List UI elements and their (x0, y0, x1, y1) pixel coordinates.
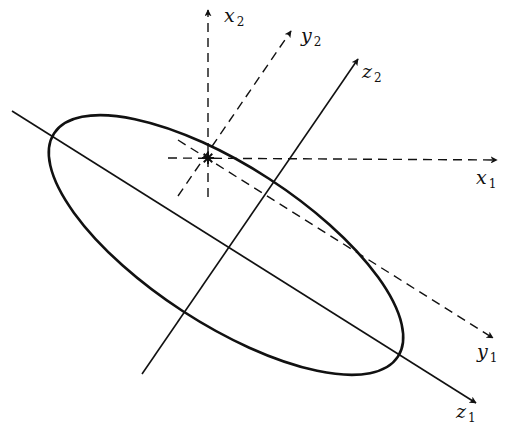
axis-label-y1-subscript: 1 (490, 351, 498, 365)
axis-x1 (168, 158, 497, 160)
axis-label-y1: y1 (476, 340, 497, 365)
axis-label-x2-subscript: 2 (237, 15, 245, 29)
axis-label-z1-subscript: 1 (468, 411, 476, 425)
axis-z1 (12, 111, 476, 403)
axis-label-y2: y2 (300, 24, 321, 49)
axis-label-z1: z1 (455, 400, 476, 425)
origin-asterisk-icon (202, 152, 214, 164)
axis-labels: x1x2y1y2z1z2 (224, 4, 497, 425)
axis-label-x1-subscript: 1 (489, 177, 497, 191)
axes (12, 10, 497, 403)
axis-label-x1: x1 (476, 166, 496, 191)
axis-label-z2: z2 (361, 60, 382, 85)
axis-y1 (178, 140, 493, 338)
axis-y2 (178, 31, 291, 196)
coordinate-diagram: x1x2y1y2z1z2 (0, 0, 507, 443)
axis-label-x2: x2 (224, 4, 244, 29)
axis-label-z2-subscript: 2 (374, 71, 382, 85)
axis-label-y2-subscript: 2 (314, 35, 322, 49)
diagram-canvas: x1x2y1y2z1z2 (0, 0, 507, 443)
axis-z2 (142, 59, 358, 374)
